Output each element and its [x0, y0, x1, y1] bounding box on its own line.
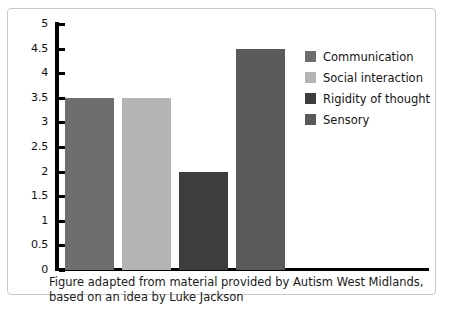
- legend-item-3: Rigidity of thought: [305, 89, 435, 108]
- legend-item-4: Sensory: [305, 110, 435, 129]
- y-tick-label: 4.5: [14, 43, 48, 54]
- legend-item-label: Sensory: [323, 114, 369, 126]
- legend-item-label: Rigidity of thought: [323, 93, 430, 105]
- legend-item-2: Social interaction: [305, 68, 435, 87]
- legend-item-label: Social interaction: [323, 72, 423, 84]
- figure-container: 54.543.532.521.510.50 CommunicationSocia…: [7, 8, 436, 295]
- bar-3: [179, 172, 228, 270]
- y-tick-label: 1.5: [14, 190, 48, 201]
- bar-4: [236, 49, 285, 270]
- caption-line-2: based on an idea by Luke Jackson: [49, 290, 409, 305]
- figure-caption: Figure adapted from material provided by…: [49, 275, 409, 305]
- y-tick-label: 2.5: [14, 141, 48, 152]
- y-tick-label: 3.5: [14, 92, 48, 103]
- y-tick-label: 4: [14, 67, 48, 78]
- y-tick-label: 5: [14, 18, 48, 29]
- bar-2: [122, 98, 171, 270]
- legend-item-label: Communication: [323, 51, 414, 63]
- legend-swatch-icon: [305, 72, 316, 83]
- legend-swatch-icon: [305, 93, 316, 104]
- y-tick-mark: [59, 23, 65, 26]
- legend-item-1: Communication: [305, 47, 435, 66]
- bar-1: [65, 98, 114, 270]
- legend-swatch-icon: [305, 51, 316, 62]
- y-tick-label: 3: [14, 116, 48, 127]
- y-tick-label: 2: [14, 166, 48, 177]
- y-tick-label: 0.5: [14, 239, 48, 250]
- chart-legend: CommunicationSocial interactionRigidity …: [305, 47, 435, 131]
- y-tick-mark: [59, 72, 65, 75]
- y-tick-label: 0: [14, 264, 48, 275]
- legend-swatch-icon: [305, 114, 316, 125]
- caption-line-1: Figure adapted from material provided by…: [49, 275, 409, 290]
- y-tick-mark: [59, 48, 65, 51]
- y-tick-label: 1: [14, 215, 48, 226]
